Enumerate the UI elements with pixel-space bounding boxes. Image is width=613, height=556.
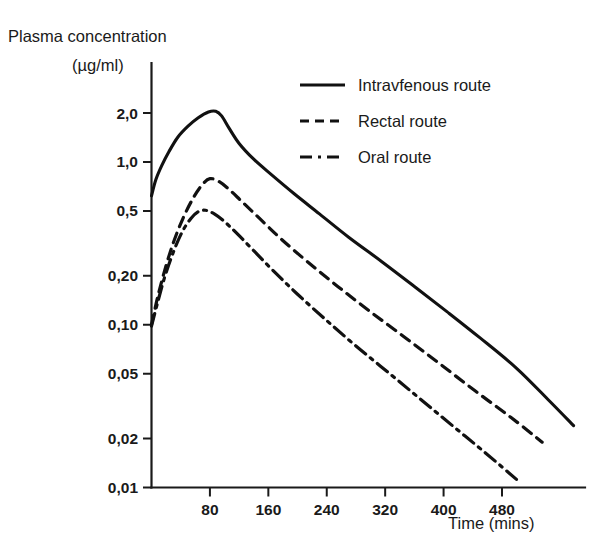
y-axis-unit-label: (µg/ml) — [72, 56, 124, 74]
y-axis-tick-labels: 2,01,00,50,200,100,050,020,01 — [108, 105, 139, 497]
x-tick-label: 240 — [314, 501, 340, 518]
x-axis-label: Time (mins) — [448, 514, 534, 532]
curve-dashed — [152, 179, 543, 443]
y-tick-label: 0,01 — [108, 479, 139, 496]
y-tick-label: 0,05 — [108, 365, 139, 382]
y-tick-label: 0,10 — [108, 316, 138, 333]
y-tick-label: 1,0 — [116, 153, 138, 170]
curve-dashdot — [152, 210, 517, 479]
y-tick-label: 0,20 — [108, 267, 138, 284]
x-tick-label: 320 — [372, 501, 398, 518]
legend-label: Oral route — [358, 148, 431, 166]
legend-label: Intravfenous route — [358, 76, 491, 94]
y-tick-label: 0,5 — [116, 202, 138, 219]
x-tick-label: 80 — [201, 501, 218, 518]
chart-legend: Intravfenous routeRectal routeOral route — [300, 76, 491, 166]
x-tick-label: 160 — [255, 501, 281, 518]
chart-svg: 2,01,00,50,200,100,050,020,01 8016024032… — [0, 0, 613, 556]
plasma-concentration-chart: 2,01,00,50,200,100,050,020,01 8016024032… — [0, 0, 613, 556]
y-axis-ticks — [143, 113, 152, 488]
y-axis-label: Plasma concentration — [8, 27, 167, 45]
data-curves-group — [152, 111, 574, 480]
legend-label: Rectal route — [358, 112, 447, 130]
y-tick-label: 0,02 — [108, 430, 138, 447]
y-tick-label: 2,0 — [116, 105, 138, 122]
x-axis-ticks — [210, 488, 502, 497]
